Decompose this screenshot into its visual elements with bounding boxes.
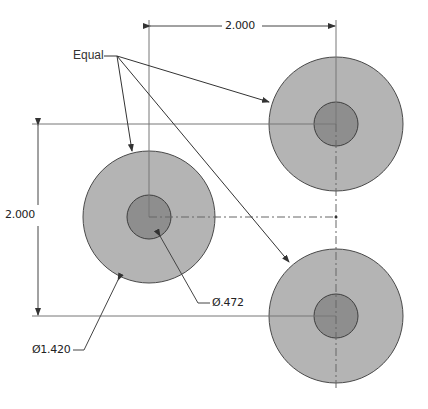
outer-diameter-value[interactable]: Ø1.420 [32,344,70,355]
outer-diameter-leader[interactable] [73,280,118,350]
equal-relation-label: Equal [73,49,104,61]
inner-diameter-value[interactable]: Ø.472 [212,297,244,308]
drawing-canvas: Equal 2.000 2.000 Ø.472 Ø1.420 [0,0,428,409]
vertical-dimension-value[interactable]: 2.000 [5,209,35,220]
horizontal-dimension-value[interactable]: 2.000 [225,20,255,31]
